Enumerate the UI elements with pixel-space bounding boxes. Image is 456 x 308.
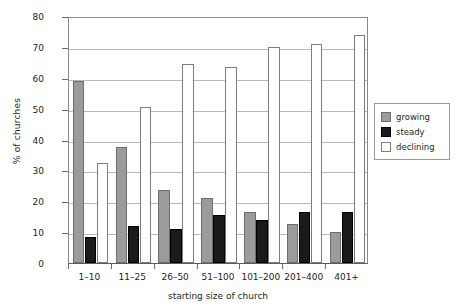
bar-declining — [268, 47, 280, 263]
x-axis-tick-label: 401+ — [334, 272, 359, 282]
bar-growing — [73, 81, 85, 263]
bar-declining — [225, 67, 237, 263]
x-axis-tick — [154, 264, 155, 269]
y-axis-tick-label: 40 — [33, 136, 44, 146]
x-axis-tick-label: 101–200 — [241, 272, 280, 282]
bars-layer — [69, 18, 367, 263]
bar-declining — [182, 64, 194, 263]
bar-steady — [170, 229, 182, 263]
legend-label-steady: steady — [396, 127, 425, 137]
y-axis-tick-label: 70 — [33, 43, 44, 53]
legend: growing steady declining — [374, 103, 450, 160]
y-axis-tick-label: 30 — [33, 166, 44, 176]
y-axis-tick-label: 10 — [33, 228, 44, 238]
bar-declining — [140, 107, 152, 263]
bar-steady — [85, 237, 97, 263]
x-axis-tick-label: 201–400 — [284, 272, 323, 282]
bar-chart: % of churches 01020304050607080 1–1011–2… — [0, 0, 456, 308]
x-axis-title: starting size of church — [68, 291, 368, 301]
y-axis-tick-label: 80 — [33, 12, 44, 22]
legend-label-growing: growing — [396, 112, 430, 122]
bar-growing — [201, 198, 213, 263]
bar-growing — [287, 224, 299, 263]
legend-item-declining: declining — [381, 139, 444, 154]
bar-growing — [158, 190, 170, 263]
y-axis-tick-label: 50 — [33, 105, 44, 115]
bar-growing — [330, 232, 342, 263]
x-axis-tick — [239, 264, 240, 269]
bar-steady — [299, 212, 311, 263]
bar-declining — [97, 163, 109, 263]
bar-steady — [213, 215, 225, 263]
bar-steady — [128, 226, 140, 263]
bar-growing — [244, 212, 256, 263]
plot-area — [68, 17, 368, 264]
legend-swatch-declining-icon — [381, 142, 391, 152]
bar-declining — [311, 44, 323, 263]
y-axis: 01020304050607080 — [0, 0, 68, 308]
x-axis-tick-label: 11–25 — [119, 272, 146, 282]
legend-item-growing: growing — [381, 109, 444, 124]
x-axis-ticks — [68, 264, 368, 270]
x-axis-tick — [68, 264, 69, 269]
bar-steady — [342, 212, 354, 263]
x-axis-tick — [197, 264, 198, 269]
legend-swatch-growing-icon — [381, 112, 391, 122]
bar-steady — [256, 220, 268, 263]
legend-swatch-steady-icon — [381, 127, 391, 137]
legend-item-steady: steady — [381, 124, 444, 139]
x-axis-labels: 1–1011–2526–5051–100101–200201–400401+ — [68, 272, 368, 286]
x-axis-tick — [111, 264, 112, 269]
bar-growing — [116, 147, 128, 263]
x-axis-tick — [325, 264, 326, 269]
legend-label-declining: declining — [396, 142, 435, 152]
y-axis-tick-label: 0 — [38, 259, 44, 269]
x-axis-tick — [282, 264, 283, 269]
x-axis-tick-label: 51–100 — [201, 272, 234, 282]
y-axis-tick-label: 60 — [33, 74, 44, 84]
y-axis-tick-label: 20 — [33, 197, 44, 207]
bar-declining — [354, 35, 366, 263]
x-axis-tick-label: 26–50 — [161, 272, 188, 282]
x-axis-tick-label: 1–10 — [79, 272, 101, 282]
